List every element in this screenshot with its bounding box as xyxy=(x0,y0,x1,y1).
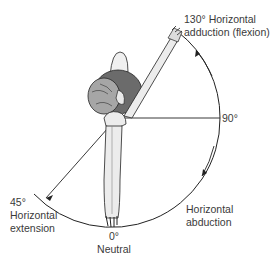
label-horizontal-adduction: 130° Horizontal adduction (flexion) xyxy=(184,13,270,39)
rom-diagram: 130° Horizontal adduction (flexion) 90° … xyxy=(0,0,277,262)
label-abduction-line2: abduction xyxy=(186,216,233,229)
label-ninety-degrees: 90° xyxy=(222,112,238,125)
label-neutral-text: Neutral xyxy=(96,243,132,256)
person-figure xyxy=(88,26,182,227)
label-adduction-line2: adduction (flexion) xyxy=(184,26,270,39)
extension-line xyxy=(46,128,108,198)
label-horizontal-abduction: Horizontal abduction xyxy=(186,203,233,229)
label-neutral: 0° Neutral xyxy=(96,230,132,256)
label-adduction-line1: 130° Horizontal xyxy=(184,13,270,26)
label-horizontal-extension: 45° Horizontal extension xyxy=(10,196,57,235)
label-extension-angle: 45° xyxy=(10,196,57,209)
label-extension-line2: Horizontal xyxy=(10,209,57,222)
label-neutral-angle: 0° xyxy=(96,230,132,243)
label-extension-line3: extension xyxy=(10,222,57,235)
label-abduction-line1: Horizontal xyxy=(186,203,233,216)
